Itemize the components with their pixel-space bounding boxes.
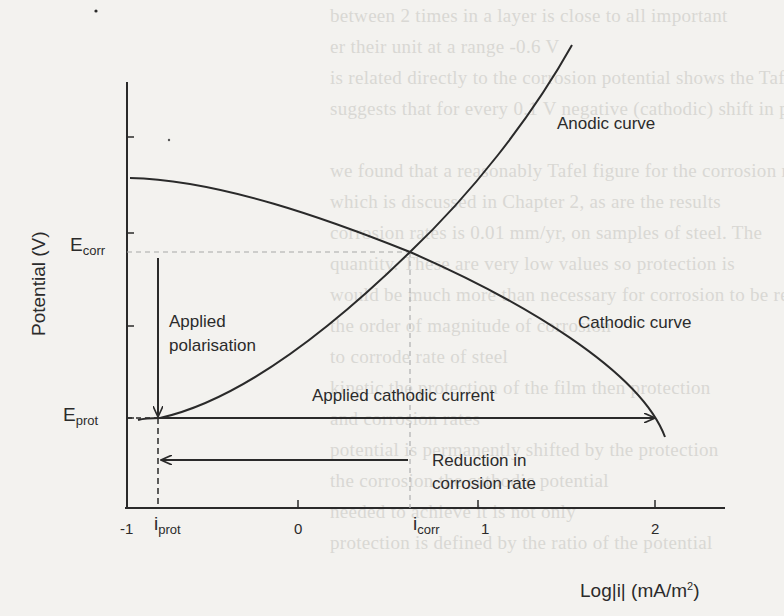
anodic-curve-label: Anodic curve	[557, 114, 655, 134]
applied-cathodic-current-label: Applied cathodic current	[312, 386, 494, 406]
x-tick-label: 2	[651, 520, 659, 537]
y-axis-label: Potential (V)	[28, 196, 54, 336]
x-tick-label: -1	[120, 520, 133, 537]
e-corr-main: E	[70, 234, 83, 255]
i-corr-label: icorr	[413, 513, 440, 537]
x-tick-label: 1	[481, 520, 489, 537]
e-corr-sub: corr	[83, 243, 105, 258]
e-prot-label: Eprot	[63, 404, 98, 428]
i-corr-sub: corr	[417, 522, 439, 537]
cathodic-curve-label: Cathodic curve	[578, 313, 691, 333]
page: between 2 times in a layer is close to a…	[0, 0, 784, 616]
x-axis-label-end: )	[693, 580, 699, 601]
evans-diagram	[0, 0, 784, 616]
e-prot-sub: prot	[76, 413, 98, 428]
x-axis-label: Log|i| (mA/m2)	[580, 580, 699, 602]
reduction-label-line1: Reduction in	[432, 451, 527, 471]
applied-polarisation-label-line1: Applied	[169, 312, 226, 332]
axes	[125, 82, 725, 509]
i-prot-sub: prot	[158, 522, 180, 537]
e-corr-label: Ecorr	[70, 234, 105, 258]
x-axis-label-main: Log|i| (mA/m	[580, 580, 687, 601]
applied-polarisation-label-line2: polarisation	[169, 336, 256, 356]
anodic-curve	[160, 45, 572, 418]
x-tick-label: 0	[294, 520, 302, 537]
e-prot-main: E	[63, 404, 76, 425]
reduction-label-line2: corrosion rate	[432, 474, 536, 494]
i-prot-label: iprot	[154, 513, 181, 537]
